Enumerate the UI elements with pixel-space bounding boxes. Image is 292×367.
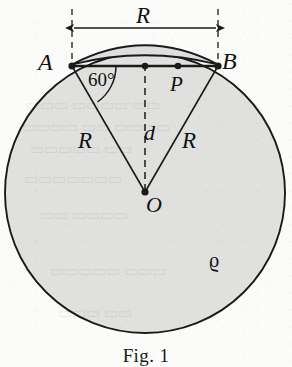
point-A-dot [68, 62, 75, 69]
figure-caption: Fig. 1 [0, 345, 292, 367]
label-radius-right-R: R [182, 129, 196, 152]
label-point-P: P [170, 74, 183, 95]
label-point-A: A [38, 50, 53, 74]
label-radius-left-R: R [78, 129, 92, 152]
label-chord-length-R: R [136, 4, 150, 27]
label-point-B: B [222, 49, 237, 73]
label-angle-60: 60° [88, 70, 115, 89]
label-point-O: O [146, 194, 162, 216]
point-P-dot [175, 63, 182, 70]
point-M-dot [142, 63, 149, 70]
label-distance-d: d [144, 122, 155, 144]
point-B-dot [214, 62, 221, 69]
label-density-rho: ϱ [209, 250, 219, 270]
